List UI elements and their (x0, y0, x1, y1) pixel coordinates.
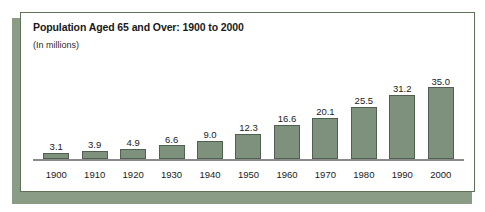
x-tick-label: 1930 (161, 169, 182, 180)
bar-value-label: 4.9 (127, 138, 140, 148)
x-axis-line (33, 159, 464, 161)
x-tick-slot: 1930 (152, 164, 190, 182)
x-tick-slot: 1900 (37, 164, 75, 182)
bar-value-label: 3.1 (50, 142, 63, 152)
bar-value-label: 9.0 (203, 130, 216, 140)
chart-panel: Population Aged 65 and Over: 1900 to 200… (20, 12, 475, 192)
bar-value-label: 20.1 (316, 107, 335, 117)
x-tick-slot: 1940 (191, 164, 229, 182)
plot-area: 3.13.94.96.69.012.316.620.125.531.235.0 … (33, 61, 464, 183)
bar (389, 95, 415, 159)
bar-group: 3.1 (37, 61, 75, 159)
bar (235, 134, 261, 159)
x-tick-label: 1900 (46, 169, 67, 180)
bar-value-label: 25.5 (355, 96, 374, 106)
bar-group: 25.5 (345, 61, 383, 159)
bar-value-label: 6.6 (165, 135, 178, 145)
x-tick-slot: 1950 (229, 164, 267, 182)
bar (82, 151, 108, 159)
x-tick-slot: 1980 (345, 164, 383, 182)
x-tick-label: 1920 (123, 169, 144, 180)
x-tick-slot: 1990 (383, 164, 421, 182)
bar-group: 16.6 (268, 61, 306, 159)
bar-group: 35.0 (422, 61, 460, 159)
x-tick-slot: 1960 (268, 164, 306, 182)
chart-figure: Population Aged 65 and Over: 1900 to 200… (0, 0, 485, 212)
x-tick-slot: 1920 (114, 164, 152, 182)
bar (351, 107, 377, 159)
bar-value-label: 31.2 (393, 84, 412, 94)
x-tick-label: 1970 (315, 169, 336, 180)
bar-group: 9.0 (191, 61, 229, 159)
bar (428, 87, 454, 159)
bar-value-label: 12.3 (239, 123, 258, 133)
bar (159, 145, 185, 159)
x-tick-label: 1950 (238, 169, 259, 180)
bar-group: 4.9 (114, 61, 152, 159)
bar-group: 3.9 (75, 61, 113, 159)
bar (274, 125, 300, 159)
bar (312, 118, 338, 159)
bar-group: 20.1 (306, 61, 344, 159)
bar (197, 141, 223, 160)
x-tick-slot: 1910 (75, 164, 113, 182)
bar-value-label: 16.6 (278, 114, 297, 124)
bar-group: 12.3 (229, 61, 267, 159)
x-tick-label: 1980 (353, 169, 374, 180)
x-axis-tick-labels: 1900191019201930194019501960197019801990… (33, 164, 464, 182)
bar-series: 3.13.94.96.69.012.316.620.125.531.235.0 (33, 61, 464, 159)
x-tick-label: 2000 (430, 169, 451, 180)
chart-subtitle: (In millions) (33, 40, 79, 50)
bar-value-label: 35.0 (432, 77, 451, 87)
bar-value-label: 3.9 (88, 140, 101, 150)
x-tick-label: 1940 (199, 169, 220, 180)
x-tick-label: 1910 (84, 169, 105, 180)
x-tick-slot: 2000 (422, 164, 460, 182)
bar-group: 6.6 (152, 61, 190, 159)
x-tick-label: 1990 (392, 169, 413, 180)
x-tick-slot: 1970 (306, 164, 344, 182)
bar-group: 31.2 (383, 61, 421, 159)
x-tick-label: 1960 (276, 169, 297, 180)
chart-title: Population Aged 65 and Over: 1900 to 200… (33, 21, 244, 33)
bar (120, 149, 146, 159)
